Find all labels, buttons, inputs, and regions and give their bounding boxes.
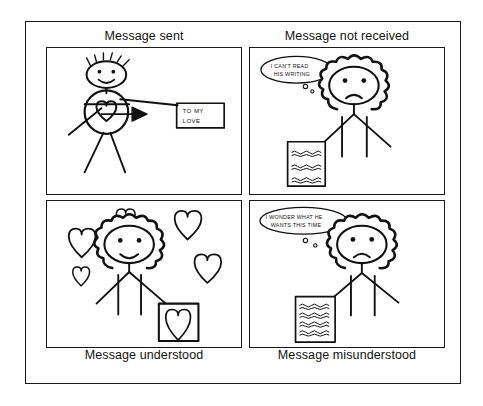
thought-dot-large	[303, 84, 307, 88]
panel-caption-message-not-received: Message not received	[249, 29, 445, 47]
floating-heart-icon	[175, 211, 202, 240]
woman-eye-left-icon	[351, 237, 356, 242]
thought-dot-large	[303, 238, 307, 242]
floating-heart-icon	[194, 254, 221, 283]
panel-caption-message-sent: Message sent	[46, 29, 242, 47]
man-head-icon	[87, 61, 127, 88]
woman-eye-right-icon	[361, 78, 366, 83]
woman-head-icon	[329, 67, 378, 104]
panel-message-sent: Message sent	[46, 29, 242, 199]
panel-frame-message-sent: TO MY LOVE	[46, 47, 242, 195]
woman-arm-left	[96, 272, 129, 304]
thought-dot-small	[314, 244, 317, 247]
panel-frame-message-understood	[46, 200, 242, 348]
panel-caption-message-understood: Message understood	[46, 348, 242, 366]
outer-frame: Message sent	[25, 21, 461, 384]
letter-box	[296, 297, 336, 342]
panel-message-understood: Message understood	[46, 200, 242, 370]
note-line-2: LOVE	[183, 117, 201, 124]
thought-line-2: HIS WRITING	[274, 71, 310, 77]
panel-frame-message-misunderstood: I WONDER WHAT HE WANTS THIS TIME	[249, 200, 445, 348]
woman-eye-right-icon	[137, 238, 142, 243]
man-leg-left	[85, 133, 104, 172]
letter-box	[288, 142, 326, 186]
floating-heart-icon	[69, 229, 96, 258]
panel-message-misunderstood: I WONDER WHAT HE WANTS THIS TIME Message…	[249, 200, 445, 370]
woman-eye-right-icon	[369, 237, 374, 242]
man-smile-icon	[98, 80, 114, 83]
comic-root: Message sent	[0, 0, 483, 406]
scene-message-misunderstood: I WONDER WHAT HE WANTS THIS TIME	[250, 201, 444, 347]
heart-card-box	[159, 304, 199, 341]
floating-heart-icon	[73, 267, 90, 286]
scene-message-sent: TO MY LOVE	[47, 48, 241, 194]
man-body-icon	[85, 90, 129, 133]
panel-caption-message-misunderstood: Message misunderstood	[249, 348, 445, 366]
man-eye-right-icon	[111, 70, 115, 74]
note-line-1: TO MY	[183, 107, 204, 114]
panel-message-not-received: Message not received	[249, 29, 445, 199]
man-eye-left-icon	[98, 70, 102, 74]
woman-arm-right	[129, 272, 166, 304]
panel-frame-message-not-received: I CAN'T READ HIS WRITING	[249, 47, 445, 195]
thought-line-1: I CAN'T READ	[271, 63, 309, 69]
scene-message-not-received: I CAN'T READ HIS WRITING	[250, 48, 444, 194]
thought-line-2: WANTS THIS TIME	[271, 222, 322, 228]
woman-head-icon	[337, 226, 386, 263]
thought-dot-small	[311, 90, 314, 93]
panel-grid: Message sent	[26, 22, 460, 383]
woman-arm-right	[354, 114, 391, 147]
woman-arm-right	[362, 273, 399, 303]
scene-message-understood	[47, 201, 241, 347]
man-leg-right	[110, 133, 125, 172]
thought-line-1: I WONDER WHAT HE	[266, 214, 323, 220]
woman-eye-left-icon	[343, 78, 348, 83]
woman-eye-left-icon	[118, 238, 123, 243]
arrow-head-icon	[132, 107, 147, 121]
